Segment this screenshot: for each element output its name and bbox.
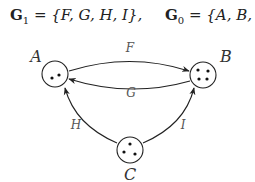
node-label-C: C (124, 165, 136, 182)
node-A: A (28, 47, 68, 87)
edge-label-I: I (180, 118, 186, 132)
node-B: B (190, 47, 232, 88)
arrow-H-icon (65, 88, 117, 143)
edge-label-G: G (126, 86, 136, 100)
edge-F: F (69, 41, 189, 71)
edge-G: G (69, 79, 190, 100)
edge-H: H (65, 88, 117, 143)
edge-label-H: H (70, 118, 82, 132)
category-diagram: F G H I A B C (0, 0, 255, 182)
node-label-B: B (219, 47, 232, 66)
arrow-F-icon (69, 62, 189, 72)
edge-label-F: F (125, 41, 135, 55)
node-C: C (117, 137, 143, 182)
node-label-A: A (28, 47, 42, 66)
edge-I: I (143, 88, 194, 143)
arrow-I-icon (143, 88, 194, 143)
